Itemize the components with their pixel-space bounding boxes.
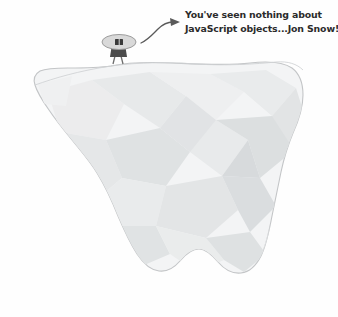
illustration-canvas: You've seen nothing about JavaScript obj…	[0, 0, 338, 317]
iceberg-body	[34, 62, 306, 273]
caption-line-1: You've seen nothing about	[185, 9, 322, 20]
iceberg-facets	[38, 70, 306, 272]
iceberg-illustration	[0, 0, 338, 317]
curved-pointer-arrow	[141, 18, 180, 43]
figure-left-leg	[113, 56, 115, 64]
caption-line-2: JavaScript objects...Jon Snow!	[185, 22, 335, 36]
caption-text: You've seen nothing about JavaScript obj…	[185, 8, 335, 36]
figure-face-divider	[119, 39, 120, 45]
figure-right-leg	[121, 56, 123, 64]
cloaked-figure	[102, 35, 136, 65]
